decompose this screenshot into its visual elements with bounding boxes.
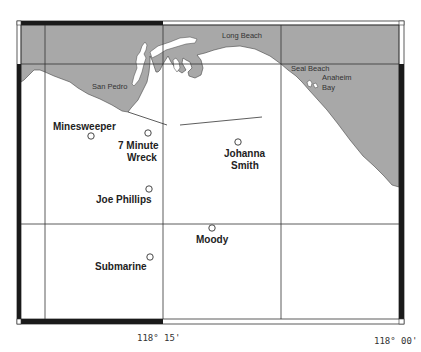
dive-site-label-minesweeper: Minesweeper	[53, 121, 116, 132]
longitude-label-118-00: 118° 00'	[374, 336, 417, 346]
dive-site-label-submarine: Submarine	[95, 261, 147, 272]
dive-site-label-johanna: Johanna	[224, 148, 266, 159]
dive-site-marker-moody[interactable]	[209, 225, 215, 231]
town-label-anaheim: Anaheim	[322, 73, 352, 82]
longitude-label-118-15: 118° 15'	[137, 333, 180, 343]
dive-site-label-7-minute: 7 Minute	[118, 140, 159, 151]
dive-site-map: San Pedro Long Beach Seal Beach Anaheim …	[0, 0, 421, 352]
dive-site-label-joe-phillips: Joe Phillips	[96, 194, 152, 205]
dive-site-marker-minesweeper[interactable]	[88, 133, 94, 139]
dive-site-label-smith: Smith	[231, 160, 259, 171]
town-label-seal-beach: Seal Beach	[291, 64, 329, 73]
dive-site-label-moody: Moody	[196, 234, 229, 245]
dive-site-label-wreck: Wreck	[127, 152, 157, 163]
dive-site-marker-johanna-smith[interactable]	[235, 139, 241, 145]
dive-site-marker-7-minute-wreck[interactable]	[145, 130, 151, 136]
town-label-san-pedro: San Pedro	[92, 82, 127, 91]
dive-site-marker-submarine[interactable]	[147, 254, 153, 260]
dive-site-marker-joe-phillips[interactable]	[146, 186, 152, 192]
town-label-bay: Bay	[322, 83, 335, 92]
town-label-long-beach: Long Beach	[222, 31, 262, 40]
